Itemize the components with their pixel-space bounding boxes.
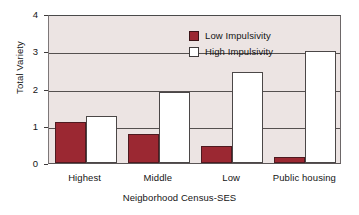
bar bbox=[159, 92, 190, 163]
bar-chart-figure: Total Variety 01234 Low Impulsivity High… bbox=[0, 0, 359, 215]
y-axis-tick-label: 2 bbox=[8, 85, 38, 95]
y-axis-label: Total Variety bbox=[14, 13, 25, 123]
plot-area: Low Impulsivity High Impulsivity bbox=[48, 15, 341, 164]
legend-item-low-impulsivity: Low Impulsivity bbox=[189, 29, 273, 42]
gridline bbox=[49, 91, 340, 92]
legend-label-high-impulsivity: High Impulsivity bbox=[205, 46, 273, 57]
legend-swatch-low-impulsivity bbox=[189, 31, 199, 41]
y-axis-tick-label: 3 bbox=[8, 47, 38, 57]
chart-legend: Low Impulsivity High Impulsivity bbox=[189, 29, 273, 58]
x-axis-tick-label: Public housing bbox=[254, 172, 354, 183]
y-axis-tick-label: 4 bbox=[8, 10, 38, 20]
y-axis-tick-mark bbox=[44, 164, 48, 165]
x-axis-label: Neigborhood Census-SES bbox=[0, 192, 359, 203]
bar bbox=[201, 146, 232, 164]
bar bbox=[128, 134, 159, 163]
legend-label-low-impulsivity: Low Impulsivity bbox=[205, 30, 271, 41]
bar bbox=[305, 51, 336, 163]
bar bbox=[86, 116, 117, 163]
legend-swatch-high-impulsivity bbox=[189, 47, 199, 57]
y-axis-tick-label: 1 bbox=[8, 122, 38, 132]
bar bbox=[274, 157, 305, 163]
bar bbox=[232, 72, 263, 163]
legend-item-high-impulsivity: High Impulsivity bbox=[189, 45, 273, 58]
y-axis-tick-label: 0 bbox=[8, 159, 38, 169]
bar bbox=[55, 122, 86, 163]
